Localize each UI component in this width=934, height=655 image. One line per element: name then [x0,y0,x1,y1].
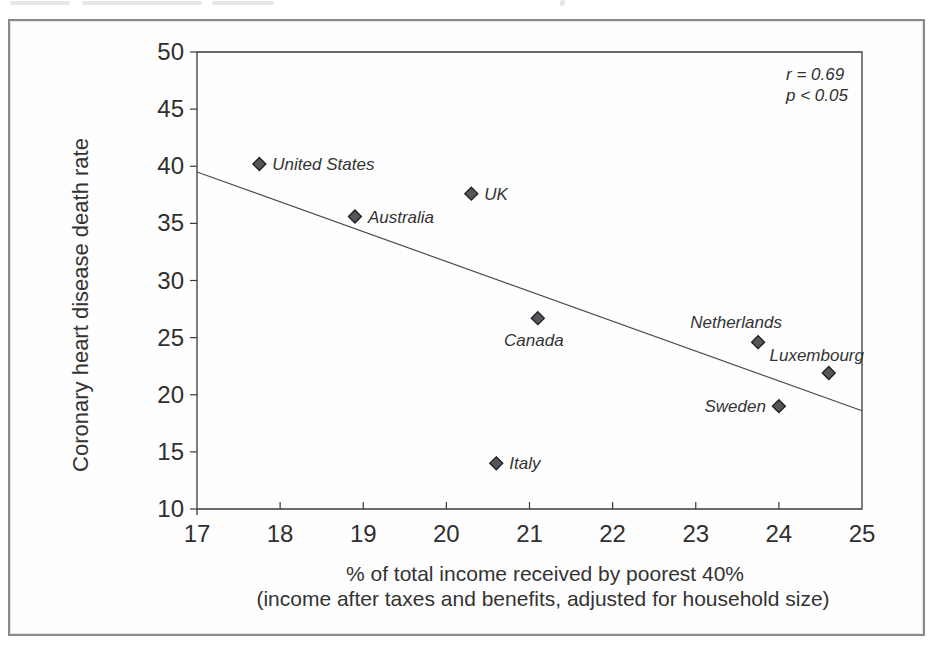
x-tick-label: 18 [267,520,294,547]
y-tick-label: 45 [157,95,184,122]
x-tick-label: 23 [682,520,709,547]
regression-line [197,172,862,411]
data-point-marker [253,157,266,170]
y-tick-label: 25 [157,324,184,351]
y-tick-label: 40 [157,152,184,179]
data-point-marker [490,457,503,470]
y-tick-label: 35 [157,209,184,236]
pvalue-annotation: p < 0.05 [785,86,848,105]
data-point-label: Sweden [704,397,765,416]
data-point-marker [772,400,785,413]
plot-border [197,52,862,509]
data-point-label: Italy [509,454,542,473]
data-point-marker [465,187,478,200]
data-point-marker [822,367,835,380]
data-point-label: Netherlands [690,313,782,332]
x-tick-label: 22 [599,520,626,547]
x-tick-label: 24 [766,520,793,547]
trend-line-group [197,172,862,411]
x-tick-label: 17 [184,520,211,547]
x-tick-label: 20 [433,520,460,547]
x-tick-label: 19 [350,520,377,547]
x-tick-label: 21 [516,520,543,547]
x-tick-label: 25 [849,520,876,547]
y-tick-label: 10 [157,495,184,522]
data-point-label: UK [484,185,508,204]
y-tick-label: 50 [157,38,184,65]
scatter-chart: 171819202122232425101520253035404550 Uni… [0,0,934,655]
points-group: United StatesAustraliaUKCanadaItalyNethe… [253,155,865,473]
correlation-annotation: r = 0.69 [786,65,845,84]
data-point-label: Australia [367,208,434,227]
axes-group [197,52,862,515]
scanned-page: 171819202122232425101520253035404550 Uni… [0,0,934,655]
y-tick-label: 15 [157,438,184,465]
data-point-label: United States [272,155,375,174]
data-point-marker [752,336,765,349]
x-axis-title-line1: % of total income received by poorest 40… [346,562,744,585]
data-point-marker [531,312,544,325]
y-axis-title: Coronary heart disease death rate [68,138,93,472]
x-axis-title-line2: (income after taxes and benefits, adjust… [256,587,829,610]
data-point-label: Luxembourg [769,346,864,365]
data-point-marker [348,210,361,223]
data-point-label: Canada [504,331,564,350]
y-tick-label: 30 [157,267,184,294]
y-tick-label: 20 [157,381,184,408]
